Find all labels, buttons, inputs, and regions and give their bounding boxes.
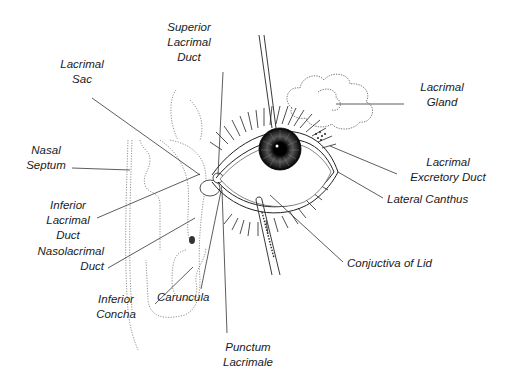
leader-nasolacrimal-duct bbox=[108, 218, 195, 268]
leader-superior-lacrimal-duct bbox=[218, 72, 223, 175]
pupil bbox=[273, 142, 287, 156]
label-inferior-lacrimal-duct: Inferior Lacrimal Duct bbox=[40, 198, 96, 243]
label-conjuctiva-of-lid: Conjuctiva of Lid bbox=[347, 256, 432, 271]
label-nasolacrimal-duct: Nasolacrimal Duct bbox=[30, 244, 104, 274]
label-lateral-canthus: Lateral Canthus bbox=[387, 192, 468, 207]
label-superior-lacrimal-duct: Superior Lacrimal Duct bbox=[157, 20, 221, 65]
leader-lacrimal-sac bbox=[92, 98, 200, 175]
leader-lateral-canthus bbox=[338, 172, 383, 198]
lacrimal-gland bbox=[287, 74, 373, 129]
label-caruncula: Caruncula bbox=[157, 290, 209, 305]
label-punctum-lacrimale: Punctum Lacrimale bbox=[218, 340, 278, 370]
leader-nasal-septum bbox=[72, 168, 130, 170]
leader-lacrimal-excretory-duct bbox=[330, 146, 397, 174]
label-nasal-septum: Nasal Septum bbox=[20, 143, 72, 173]
leader-caruncula bbox=[201, 186, 222, 289]
upper-retractor bbox=[259, 35, 276, 128]
label-lacrimal-gland: Lacrimal Gland bbox=[404, 80, 480, 110]
lacrimal-apparatus-diagram: Superior Lacrimal Duct Lacrimal Sac Lacr… bbox=[0, 0, 509, 380]
leader-inferior-lacrimal-duct bbox=[97, 174, 200, 218]
label-lacrimal-excretory-duct: Lacrimal Excretory Duct bbox=[400, 155, 496, 185]
leader-punctum-lacrimale bbox=[222, 190, 227, 333]
label-lacrimal-sac: Lacrimal Sac bbox=[52, 57, 112, 87]
lower-retractor bbox=[256, 197, 280, 275]
label-inferior-concha: Inferior Concha bbox=[80, 292, 152, 322]
